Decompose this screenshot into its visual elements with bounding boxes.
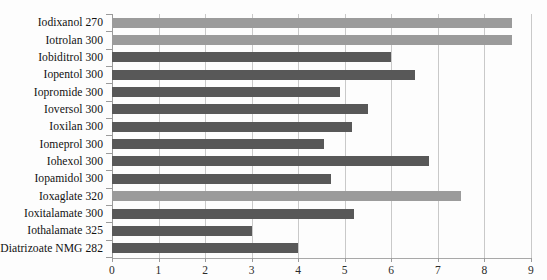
bar — [112, 191, 461, 201]
category-label: Iomeprol 300 — [0, 138, 103, 151]
gridline-9 — [531, 14, 532, 258]
gridline-8 — [484, 14, 485, 258]
y-tick-10 — [106, 188, 112, 189]
x-tick-8 — [484, 258, 485, 262]
y-tick-12 — [106, 222, 112, 223]
x-tick-label-1: 1 — [146, 263, 172, 277]
x-tick-label-6: 6 — [378, 263, 404, 277]
gridline-1 — [159, 14, 160, 258]
x-tick-2 — [205, 258, 206, 262]
category-label: Ioxitalamate 300 — [0, 207, 103, 220]
gridline-5 — [345, 14, 346, 258]
x-tick-0 — [112, 258, 113, 262]
x-axis-line — [112, 258, 532, 259]
bar — [112, 156, 429, 166]
bar — [112, 18, 512, 28]
bar-chart: 0123456789 Iodixanol 270Iotrolan 300Iobi… — [0, 0, 547, 280]
bar — [112, 139, 324, 149]
bar — [112, 226, 252, 236]
category-label: Iothalamate 325 — [0, 224, 103, 237]
bar — [112, 122, 352, 132]
category-label: Ioversol 300 — [0, 103, 103, 116]
bar — [112, 52, 391, 62]
y-tick-8 — [106, 153, 112, 154]
bar — [112, 243, 298, 253]
category-label: Iodixanol 270 — [0, 16, 103, 29]
x-tick-label-2: 2 — [192, 263, 218, 277]
x-tick-label-5: 5 — [332, 263, 358, 277]
bar — [112, 174, 331, 184]
gridline-7 — [438, 14, 439, 258]
gridline-0 — [112, 14, 113, 258]
y-tick-5 — [106, 101, 112, 102]
category-label: Iopamidol 300 — [0, 172, 103, 185]
x-tick-label-9: 9 — [518, 263, 544, 277]
x-tick-label-8: 8 — [471, 263, 497, 277]
x-tick-1 — [159, 258, 160, 262]
x-tick-4 — [298, 258, 299, 262]
y-tick-3 — [106, 66, 112, 67]
gridline-2 — [205, 14, 206, 258]
y-tick-1 — [106, 31, 112, 32]
bar — [112, 70, 415, 80]
y-tick-4 — [106, 83, 112, 84]
y-tick-11 — [106, 205, 112, 206]
category-label: Iotrolan 300 — [0, 34, 103, 47]
x-tick-5 — [345, 258, 346, 262]
category-label: Ioxaglate 320 — [0, 190, 103, 203]
plot-area — [112, 14, 531, 258]
x-tick-9 — [531, 258, 532, 262]
category-label: Iohexol 300 — [0, 155, 103, 168]
bar — [112, 104, 368, 114]
gridline-3 — [252, 14, 253, 258]
x-tick-label-7: 7 — [425, 263, 451, 277]
y-tick-2 — [106, 49, 112, 50]
bar — [112, 209, 354, 219]
y-tick-7 — [106, 135, 112, 136]
y-tick-0 — [106, 14, 112, 15]
x-tick-label-4: 4 — [285, 263, 311, 277]
y-tick-9 — [106, 170, 112, 171]
bar — [112, 35, 512, 45]
bar — [112, 87, 340, 97]
gridline-4 — [298, 14, 299, 258]
category-label: Iobiditrol 300 — [0, 51, 103, 64]
x-tick-7 — [438, 258, 439, 262]
y-tick-6 — [106, 118, 112, 119]
y-tick-13 — [106, 240, 112, 241]
gridline-6 — [391, 14, 392, 258]
x-tick-label-3: 3 — [239, 263, 265, 277]
x-tick-3 — [252, 258, 253, 262]
x-tick-6 — [391, 258, 392, 262]
category-label: Iopentol 300 — [0, 68, 103, 81]
category-label: Diatrizoate NMG 282 — [0, 242, 103, 255]
category-label: Ioxilan 300 — [0, 120, 103, 133]
category-label: Iopromide 300 — [0, 86, 103, 99]
y-tick-end — [106, 257, 112, 258]
x-tick-label-0: 0 — [99, 263, 125, 277]
